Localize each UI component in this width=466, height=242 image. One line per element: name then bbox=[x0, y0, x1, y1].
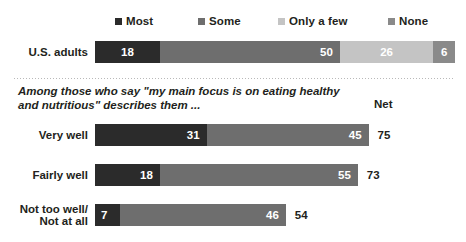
bar-segment-most: 7 bbox=[95, 204, 120, 226]
stacked-bar-fairly-well: 1855 bbox=[95, 164, 358, 186]
bar-segment-most: 18 bbox=[95, 41, 160, 63]
bar-segment-none: 6 bbox=[433, 41, 455, 63]
bar-segment-value-most: 7 bbox=[101, 209, 107, 221]
section-divider bbox=[14, 78, 454, 79]
bar-segment-some: 46 bbox=[120, 204, 286, 226]
row-label-not-too-well: Not too well/ Not at all bbox=[0, 204, 88, 226]
bar-segment-some: 50 bbox=[160, 41, 340, 63]
chart-row-us-adults: U.S. adults 1850266 bbox=[0, 41, 466, 63]
row-label-very-well: Very well bbox=[0, 124, 88, 146]
bar-segment-value-some: 46 bbox=[266, 209, 279, 221]
bar-segment-value-most: 18 bbox=[95, 46, 160, 58]
bar-segment-value-most: 18 bbox=[140, 169, 153, 181]
net-column-header: Net bbox=[374, 98, 393, 110]
net-value-not-too-well: 54 bbox=[295, 204, 308, 226]
bar-segment-value-none: 6 bbox=[433, 46, 455, 58]
net-value-fairly-well: 73 bbox=[367, 164, 380, 186]
chart-row-not-too-well: Not too well/ Not at all 746 54 bbox=[0, 204, 466, 226]
row-label-not-too-well-line1: Not too well/ bbox=[20, 203, 88, 215]
stacked-bar-very-well: 3145 bbox=[95, 124, 369, 146]
bar-segment-value-some: 50 bbox=[320, 46, 333, 58]
chart-row-fairly-well: Fairly well 1855 73 bbox=[0, 164, 466, 186]
row-label-not-too-well-line2: Not at all bbox=[39, 215, 88, 227]
bar-segment-most: 18 bbox=[95, 164, 160, 186]
bar-segment-value-most: 31 bbox=[187, 129, 200, 141]
stacked-bar-us-adults: 1850266 bbox=[95, 41, 455, 63]
stacked-bar-chart: U.S. adults 1850266 Among those who say … bbox=[0, 0, 466, 242]
chart-subtitle-line2: and nutritious" describes them ... bbox=[18, 98, 348, 112]
chart-subtitle-line1: Among those who say "my main focus is on… bbox=[18, 84, 348, 98]
bar-segment-value-some: 55 bbox=[338, 169, 351, 181]
chart-row-very-well: Very well 3145 75 bbox=[0, 124, 466, 146]
row-label-fairly-well: Fairly well bbox=[0, 164, 88, 186]
bar-segment-some: 55 bbox=[160, 164, 358, 186]
bar-segment-most: 31 bbox=[95, 124, 207, 146]
bar-segment-value-only-a-few: 26 bbox=[340, 46, 434, 58]
bar-segment-only-a-few: 26 bbox=[340, 41, 434, 63]
bar-segment-some: 45 bbox=[207, 124, 369, 146]
row-label-us-adults: U.S. adults bbox=[0, 41, 88, 63]
chart-subtitle: Among those who say "my main focus is on… bbox=[18, 84, 348, 112]
stacked-bar-not-too-well: 746 bbox=[95, 204, 286, 226]
bar-segment-value-some: 45 bbox=[349, 129, 362, 141]
net-value-very-well: 75 bbox=[378, 124, 391, 146]
